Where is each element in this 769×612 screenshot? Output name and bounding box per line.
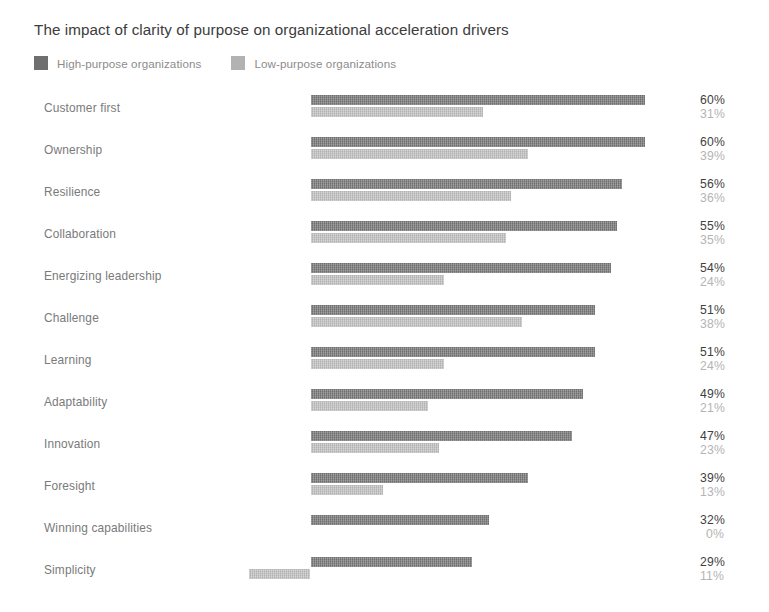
value-low-purpose: 24% [700,359,736,373]
bar-low-purpose [311,317,522,327]
value-high-purpose: 60% [700,135,736,149]
bar-low-purpose [311,233,506,243]
bar-low-purpose [311,485,383,495]
chart-row: Ownership60%39% [0,130,769,172]
value-high-purpose: 49% [700,387,736,401]
bar-group [311,466,691,508]
value-low-purpose: 39% [700,149,736,163]
chart-container: The impact of clarity of purpose on orga… [0,0,769,612]
value-high-purpose: 60% [700,93,736,107]
bar-group [311,340,691,382]
bar-high-purpose [311,389,583,399]
value-labels: 55%35% [700,214,746,256]
bar-group [311,550,691,592]
value-low-purpose: 23% [700,443,736,457]
chart-row: Adaptability49%21% [0,382,769,424]
category-label: Ownership [44,143,102,157]
legend-swatch-high-purpose-icon [34,56,48,70]
value-labels: 60%39% [700,130,746,172]
chart-row: Collaboration55%35% [0,214,769,256]
value-high-purpose: 29% [700,555,736,569]
category-label: Foresight [44,479,95,493]
chart-row: Foresight39%13% [0,466,769,508]
chart-row: Simplicity29%11% [0,550,769,592]
value-high-purpose: 51% [700,345,736,359]
bar-group [311,256,691,298]
value-low-purpose: 0% [700,527,742,541]
legend-item-low-purpose: Low-purpose organizations [231,56,396,70]
chart-legend: High-purpose organizations Low-purpose o… [34,55,426,71]
value-low-purpose: 24% [700,275,736,289]
bar-low-purpose [311,443,439,453]
bar-group [311,172,691,214]
category-label: Resilience [44,185,100,199]
category-label: Energizing leadership [44,269,162,283]
value-high-purpose: 56% [700,177,736,191]
chart-row: Energizing leadership54%24% [0,256,769,298]
value-low-purpose: 31% [700,107,736,121]
value-high-purpose: 51% [700,303,736,317]
bar-high-purpose [311,179,622,189]
value-high-purpose: 39% [700,471,736,485]
category-label: Customer first [44,101,120,115]
chart-row: Resilience56%36% [0,172,769,214]
bar-high-purpose [311,221,617,231]
legend-swatch-low-purpose-icon [231,56,245,70]
value-labels: 39%13% [700,466,746,508]
category-label: Simplicity [44,563,96,577]
value-low-purpose: 11% [700,569,736,583]
bar-group [311,130,691,172]
category-label: Learning [44,353,91,367]
value-labels: 54%24% [700,256,746,298]
value-low-purpose: 38% [700,317,736,331]
category-label: Adaptability [44,395,107,409]
chart-row: Challenge51%38% [0,298,769,340]
bar-group [311,424,691,466]
value-labels: 29%11% [700,550,746,592]
bar-high-purpose [311,515,489,525]
legend-label-high-purpose: High-purpose organizations [57,57,201,70]
bar-high-purpose [311,431,572,441]
bar-low-purpose [249,569,310,579]
bar-group [311,508,691,550]
legend-label-low-purpose: Low-purpose organizations [254,57,396,70]
category-label: Collaboration [44,227,116,241]
category-label: Winning capabilities [44,521,152,535]
bar-low-purpose [311,191,511,201]
bar-high-purpose [311,263,611,273]
bar-high-purpose [311,95,645,105]
bar-group [311,214,691,256]
bar-low-purpose [311,149,528,159]
value-labels: 60%31% [700,88,746,130]
value-labels: 32%0% [700,508,746,550]
bar-high-purpose [311,473,528,483]
value-low-purpose: 35% [700,233,736,247]
bar-group [311,382,691,424]
chart-rows: Customer first60%31%Ownership60%39%Resil… [0,88,769,592]
bar-low-purpose [311,401,428,411]
value-labels: 56%36% [700,172,746,214]
value-labels: 51%38% [700,298,746,340]
bar-low-purpose [311,275,444,285]
value-high-purpose: 54% [700,261,736,275]
value-labels: 47%23% [700,424,746,466]
bar-low-purpose [311,359,444,369]
bar-group [311,88,691,130]
bar-high-purpose [311,137,645,147]
bar-low-purpose [311,107,483,117]
chart-row: Innovation47%23% [0,424,769,466]
category-label: Innovation [44,437,100,451]
bar-high-purpose [311,305,595,315]
value-labels: 49%21% [700,382,746,424]
value-labels: 51%24% [700,340,746,382]
bar-high-purpose [311,347,595,357]
value-low-purpose: 36% [700,191,736,205]
bar-high-purpose [311,557,472,567]
chart-row: Winning capabilities32%0% [0,508,769,550]
value-high-purpose: 55% [700,219,736,233]
category-label: Challenge [44,311,99,325]
chart-title: The impact of clarity of purpose on orga… [34,20,509,39]
chart-row: Learning51%24% [0,340,769,382]
chart-row: Customer first60%31% [0,88,769,130]
value-low-purpose: 21% [700,401,736,415]
